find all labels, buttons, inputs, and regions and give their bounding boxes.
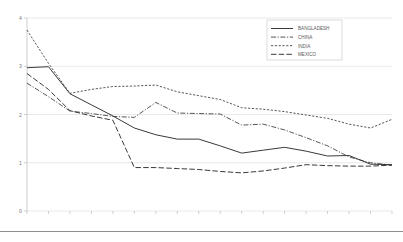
x-tick-label: 2007	[386, 217, 398, 218]
footer-divider	[0, 231, 403, 232]
x-tick-label: 2004	[322, 217, 334, 218]
x-tick-label: 1995	[129, 217, 141, 218]
y-tick-label: 0	[19, 208, 22, 214]
x-tick-label: 2006	[365, 217, 377, 218]
legend-label-mexico: MEXICO	[298, 52, 317, 57]
y-tick-label: 3	[19, 63, 22, 69]
y-tick-label: 1	[19, 160, 22, 166]
y-tick-label: 2	[19, 112, 22, 118]
x-tick-label: 1990	[21, 217, 33, 218]
x-tick-label: 2003	[300, 217, 312, 218]
legend-label-china: CHINA	[298, 35, 313, 40]
x-tick-label: 2001	[257, 217, 269, 218]
legend-label-india: INDIA	[298, 44, 311, 49]
x-tick-label: 2000	[236, 217, 248, 218]
x-tick-label: 1997	[172, 217, 184, 218]
x-tick-label: 1999	[214, 217, 226, 218]
y-tick-label: 4	[19, 15, 22, 21]
x-tick-label: 1998	[193, 217, 205, 218]
chart-container: 01234 1990199119921993199419951996199719…	[0, 0, 403, 242]
plot-area: 01234 1990199119921993199419951996199719…	[0, 0, 403, 218]
x-tick-label: 1992	[64, 217, 76, 218]
line-chart: 01234 1990199119921993199419951996199719…	[0, 0, 403, 218]
x-tick-label: 1991	[43, 217, 55, 218]
series-line-china	[27, 83, 392, 165]
series-line-bangladesh	[27, 67, 392, 165]
x-tick-label: 1993	[86, 217, 98, 218]
legend-label-bangladesh: BANGLADESH	[298, 26, 329, 31]
x-tick-marks-group	[27, 211, 392, 214]
y-tick-labels-group: 01234	[19, 15, 27, 214]
series-line-mexico	[27, 73, 392, 172]
chart-legend: BANGLADESHCHINAINDIAMEXICO	[267, 20, 342, 60]
x-tick-label: 2002	[279, 217, 291, 218]
x-tick-label: 2005	[343, 217, 355, 218]
x-tick-label: 1996	[150, 217, 162, 218]
x-tick-label: 1994	[107, 217, 119, 218]
x-tick-labels-group: 1990199119921993199419951996199719981999…	[21, 217, 398, 218]
